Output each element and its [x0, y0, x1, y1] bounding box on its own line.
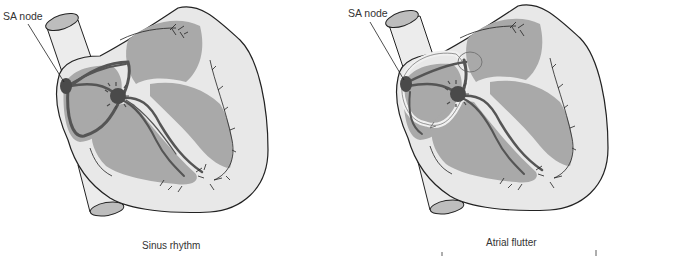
- heart-diagram-sinus: [0, 0, 338, 256]
- left-atrium: [126, 21, 202, 84]
- left-atrium: [466, 19, 542, 82]
- heart-diagram-flutter: [338, 0, 676, 256]
- sa-node: [400, 76, 412, 92]
- caption-sinus-rhythm: Sinus rhythm: [142, 240, 200, 251]
- sa-node: [60, 78, 72, 94]
- panel-atrial-flutter: SA node Atrial flutter: [338, 0, 676, 256]
- sa-node-label: SA node: [3, 10, 43, 22]
- panel-sinus-rhythm: SA node Sinus rhythm: [0, 0, 338, 256]
- sa-node-label: SA node: [348, 7, 388, 19]
- caption-atrial-flutter: Atrial flutter: [486, 237, 537, 248]
